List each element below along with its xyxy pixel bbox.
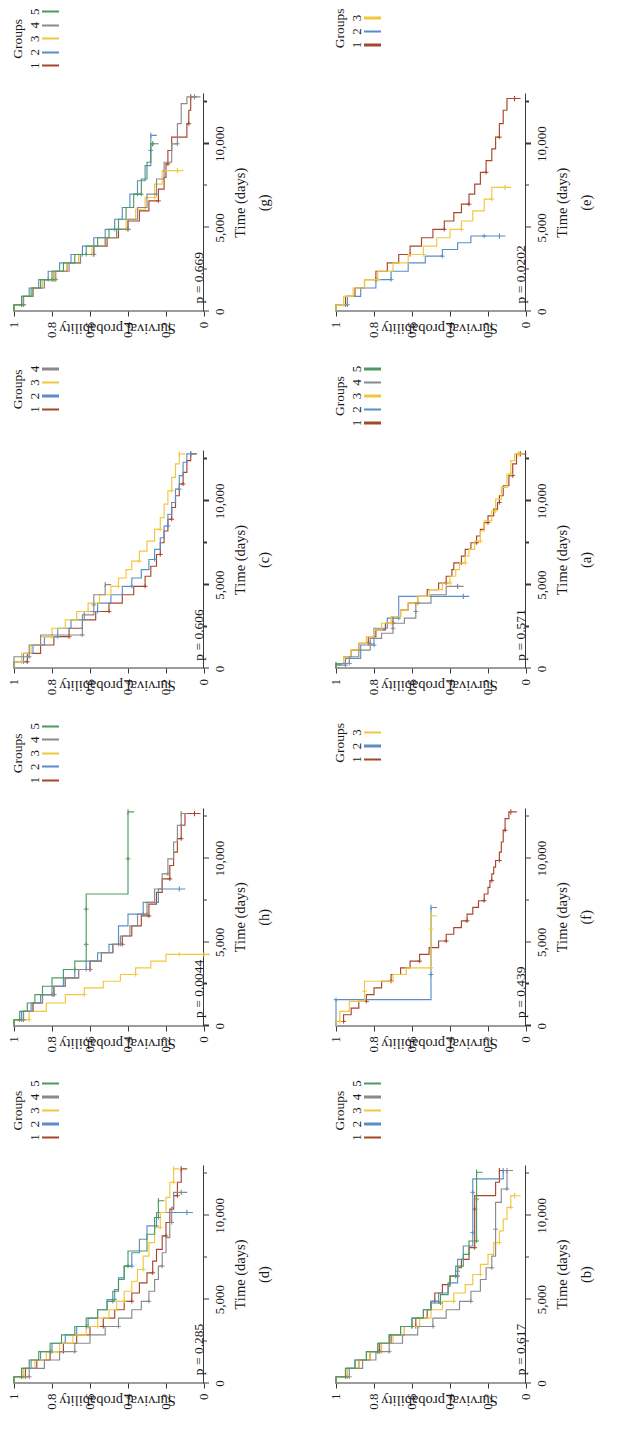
censor-mark xyxy=(413,609,418,613)
y-tick xyxy=(204,1026,205,1031)
legend-item-group-5[interactable]: 5 xyxy=(28,723,59,730)
x-tick-minor xyxy=(204,899,207,900)
x-tick-label: 5,000 xyxy=(534,927,550,956)
legend-color-swatch xyxy=(364,16,381,18)
y-tick xyxy=(336,1026,337,1031)
legend: Groups12345 xyxy=(10,723,59,784)
legend-item-group-1[interactable]: 1 xyxy=(28,1134,59,1141)
legend-item-label: 2 xyxy=(28,392,41,399)
legend-item-group-4[interactable]: 4 xyxy=(28,365,59,372)
legend-item-label: 5 xyxy=(350,365,363,372)
x-tick-label: 10,000 xyxy=(212,126,228,162)
legend-item-group-1[interactable]: 1 xyxy=(28,62,59,69)
legend: Groups123 xyxy=(332,723,381,763)
legend-color-swatch xyxy=(42,24,59,26)
legend-item-group-2[interactable]: 2 xyxy=(350,1120,381,1127)
legend-item-group-3[interactable]: 3 xyxy=(350,729,381,736)
legend-item-group-2[interactable]: 2 xyxy=(28,1120,59,1127)
figure-root: 05,00010,00000.20.40.60.81p = 0.285Time … xyxy=(0,0,644,1429)
legend-item-group-5[interactable]: 5 xyxy=(28,1080,59,1087)
x-tick xyxy=(204,142,209,143)
legend-item-group-1[interactable]: 1 xyxy=(350,419,381,426)
legend-color-swatch xyxy=(364,43,381,45)
censor-mark xyxy=(84,941,89,945)
legend-item-label: 1 xyxy=(350,756,363,763)
legend-item-group-3[interactable]: 3 xyxy=(350,392,381,399)
panel-label: (f) xyxy=(578,808,595,1026)
x-tick-minor xyxy=(204,1256,207,1257)
y-tick xyxy=(204,311,205,316)
legend-item-group-5[interactable]: 5 xyxy=(350,365,381,372)
legend-item-group-1[interactable]: 1 xyxy=(350,41,381,48)
x-tick-minor xyxy=(204,1172,207,1173)
legend-item-group-3[interactable]: 3 xyxy=(28,750,59,757)
y-tick xyxy=(128,1026,129,1031)
panel-label: (g) xyxy=(256,93,273,311)
y-tick xyxy=(128,669,129,674)
x-tick xyxy=(526,583,531,584)
x-axis-title: Time (days) xyxy=(554,808,571,1026)
x-tick xyxy=(204,1214,209,1215)
y-axis-title: Survival probability xyxy=(13,677,223,694)
y-tick xyxy=(412,1026,413,1031)
legend-item-label: 1 xyxy=(350,1134,363,1141)
legend-item-label: 1 xyxy=(28,777,41,784)
legend-item-group-5[interactable]: 5 xyxy=(28,8,59,15)
x-tick-minor xyxy=(526,100,529,101)
plot-area-b: 05,00010,00000.20.40.60.81 xyxy=(336,1165,526,1383)
x-tick-label: 10,000 xyxy=(212,483,228,519)
curve-group-3 xyxy=(14,170,177,311)
legend-item-group-3[interactable]: 3 xyxy=(350,1107,381,1114)
legend-item-label: 4 xyxy=(28,1093,41,1100)
terminal-marker xyxy=(181,1189,187,1194)
legend-color-swatch xyxy=(364,408,381,410)
legend-item-group-3[interactable]: 3 xyxy=(350,14,381,21)
terminal-marker xyxy=(507,1167,513,1172)
legend-item-group-2[interactable]: 2 xyxy=(28,392,59,399)
legend-color-swatch xyxy=(42,10,59,12)
legend-color-swatch xyxy=(364,1109,381,1111)
legend-item-group-2[interactable]: 2 xyxy=(350,28,381,35)
p-value-annotation: p = 0.669 xyxy=(191,251,314,303)
x-tick xyxy=(204,226,209,227)
legend-item-group-3[interactable]: 3 xyxy=(28,379,59,386)
legend-color-swatch xyxy=(42,394,59,396)
legend-item-group-2[interactable]: 2 xyxy=(350,742,381,749)
curve-group-3 xyxy=(14,1168,174,1383)
legend-item-group-3[interactable]: 3 xyxy=(28,1107,59,1114)
legend-item-group-5[interactable]: 5 xyxy=(350,1080,381,1087)
legend-item-group-2[interactable]: 2 xyxy=(350,406,381,413)
x-tick-label: 5,000 xyxy=(212,1285,228,1314)
legend-item-group-4[interactable]: 4 xyxy=(28,736,59,743)
p-value-annotation: p = 0.606 xyxy=(191,609,314,661)
legend-item-label: 2 xyxy=(350,28,363,35)
x-tick-label: 0 xyxy=(212,1380,228,1387)
legend-item-group-2[interactable]: 2 xyxy=(28,49,59,56)
panel-b: 05,00010,00000.20.40.60.81p = 0.617Time … xyxy=(322,1072,644,1429)
legend-color-swatch xyxy=(364,394,381,396)
legend-item-group-3[interactable]: 3 xyxy=(28,35,59,42)
legend-item-group-4[interactable]: 4 xyxy=(28,22,59,29)
panel-label: (c) xyxy=(256,451,273,669)
y-tick xyxy=(488,669,489,674)
legend-title: Groups xyxy=(332,723,348,763)
legend-color-swatch xyxy=(42,779,59,781)
legend-item-group-1[interactable]: 1 xyxy=(350,1134,381,1141)
legend-item-group-4[interactable]: 4 xyxy=(350,1093,381,1100)
panel-g: 05,00010,00000.20.40.60.81p = 0.669Time … xyxy=(0,0,322,357)
p-value-annotation: p = 0.0044 xyxy=(191,959,314,1017)
legend-color-swatch xyxy=(42,37,59,39)
legend-item-group-4[interactable]: 4 xyxy=(350,379,381,386)
x-tick xyxy=(526,857,531,858)
terminal-marker xyxy=(181,810,187,815)
legend-item-label: 4 xyxy=(350,1093,363,1100)
legend-item-group-2[interactable]: 2 xyxy=(28,763,59,770)
y-tick xyxy=(128,1383,129,1388)
survival-curves-b xyxy=(336,1165,526,1383)
terminal-marker xyxy=(191,451,197,456)
legend-item-group-1[interactable]: 1 xyxy=(28,406,59,413)
legend-item-group-1[interactable]: 1 xyxy=(350,756,381,763)
legend-items: 12345 xyxy=(28,8,59,69)
legend-item-group-1[interactable]: 1 xyxy=(28,777,59,784)
legend-item-group-4[interactable]: 4 xyxy=(28,1093,59,1100)
